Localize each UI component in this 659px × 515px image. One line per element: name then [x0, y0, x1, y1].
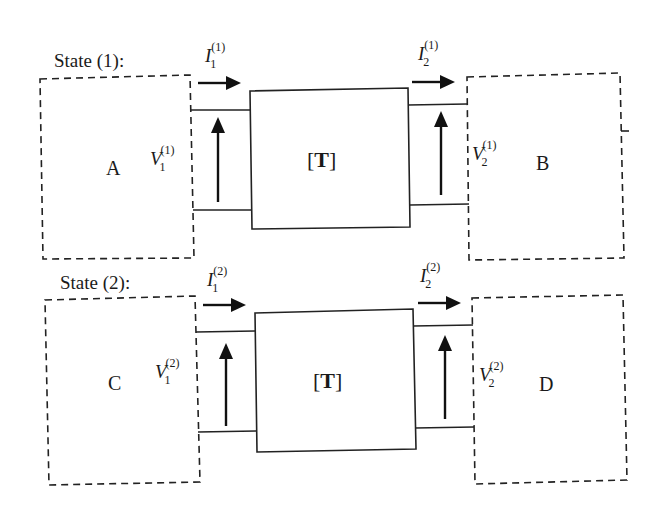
network-c-box	[45, 296, 200, 485]
network-b-label: B	[536, 152, 549, 174]
voltage-arrow-icon	[438, 335, 452, 419]
voltage-arrow-icon	[434, 111, 448, 195]
port2-top-wire	[413, 325, 473, 326]
current-arrow-icon	[203, 298, 246, 312]
current-i1-label: I1(2)	[206, 264, 227, 295]
current-i2-label: I2(1)	[417, 38, 438, 69]
voltage-v1-label: V1(1)	[150, 143, 175, 174]
voltage-arrow-icon	[211, 117, 225, 202]
current-arrow-icon	[418, 296, 461, 310]
t-matrix-label: [T]	[307, 147, 336, 172]
current-arrow-icon	[198, 76, 241, 90]
state-2: State (2): C [T] D I1(2) V1(2)	[45, 260, 627, 485]
voltage-v2-label: V2(2)	[479, 359, 504, 390]
port2-top-wire	[408, 104, 467, 105]
voltage-v2-label: V2(1)	[472, 138, 497, 169]
network-c-label: C	[108, 372, 121, 394]
state-1: State (1): A [T] B I1(1) V1(1)	[40, 38, 629, 260]
network-a-label: A	[106, 157, 121, 179]
state-2-title: State (2):	[60, 272, 130, 294]
current-i2-label: I2(2)	[419, 260, 440, 291]
t-matrix-label: [T]	[313, 368, 342, 393]
port1-top-wire	[196, 331, 255, 332]
voltage-v1-label: V1(2)	[155, 356, 180, 387]
current-arrow-icon	[412, 75, 455, 89]
network-d-label: D	[539, 373, 553, 395]
port2-bottom-wire	[415, 427, 474, 428]
state-1-title: State (1):	[54, 50, 124, 72]
port2-bottom-wire	[410, 204, 469, 205]
port1-bottom-wire	[198, 431, 257, 432]
voltage-arrow-icon	[219, 343, 233, 426]
two-port-reciprocity-diagram: State (1): A [T] B I1(1) V1(1)	[0, 0, 659, 515]
current-i1-label: I1(1)	[204, 40, 225, 71]
